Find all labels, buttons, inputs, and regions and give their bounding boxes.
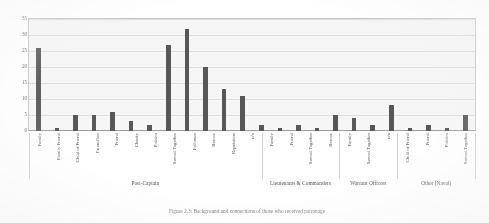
bar-slot — [233, 19, 252, 131]
y-axis-tick: 35 — [9, 16, 27, 21]
x-axis-label: Served Together — [308, 133, 313, 164]
x-axis-label: n/a — [385, 133, 390, 139]
x-axis-label: Friend — [424, 133, 429, 145]
x-label-slot: Family — [262, 133, 281, 179]
group-label: Lieutenants & Commanders — [262, 180, 340, 186]
x-label-slot: Reputation — [223, 133, 242, 179]
bar — [389, 105, 394, 131]
bar-slot — [456, 19, 475, 131]
x-label-slot: Politics — [145, 133, 164, 179]
x-axis-label: n/a — [249, 133, 254, 139]
x-axis-label: Family — [346, 133, 351, 147]
x-axis-label: Child of Friend — [75, 133, 80, 162]
group-label: Post-Captain — [29, 180, 262, 186]
bar — [129, 121, 134, 131]
group-separator — [397, 133, 398, 179]
x-label-slot: Served Together — [456, 133, 475, 179]
y-axis-tick: 25 — [9, 48, 27, 53]
bar-slot — [215, 19, 234, 131]
bar-slot — [85, 19, 104, 131]
bar-slot — [363, 19, 382, 131]
bar-slot — [289, 19, 308, 131]
bar — [426, 125, 431, 131]
bar-slot — [196, 19, 215, 131]
group-label: Other (Naval) — [397, 180, 475, 186]
group-labels: Post-CaptainLieutenants & CommandersWarr… — [29, 180, 475, 202]
bar — [315, 128, 320, 131]
bar — [222, 89, 227, 131]
x-axis-label: Rescue — [327, 133, 332, 147]
x-label-slot: Follower — [184, 133, 203, 179]
bar — [333, 115, 338, 131]
x-axis-label: Follower — [191, 133, 196, 150]
x-axis-label: Family Friend — [56, 133, 61, 160]
bar — [463, 115, 468, 131]
bar-slot — [66, 19, 85, 131]
figure-caption: Figure 2.3: Background and connections o… — [52, 208, 442, 215]
group-label: Warrant Officers — [339, 180, 397, 186]
bar — [240, 96, 245, 131]
bar — [296, 125, 301, 131]
x-label-slot: Served Together — [165, 133, 184, 179]
x-label-slot: Family Friend — [48, 133, 67, 179]
bar-slot — [308, 19, 327, 131]
bar-slot — [438, 19, 457, 131]
group-separator — [339, 133, 340, 179]
bar — [185, 29, 190, 131]
y-axis-tick: 15 — [9, 80, 27, 85]
bar-slot — [178, 19, 197, 131]
x-axis-label: Reputation — [230, 133, 235, 154]
x-label-slot: Friend — [417, 133, 436, 179]
x-label-slot: Politics — [436, 133, 455, 179]
x-axis-label: Child of Friend — [405, 133, 410, 162]
bar-slot — [401, 19, 420, 131]
bar-slot — [382, 19, 401, 131]
bar — [110, 112, 115, 131]
x-label-slot: Friend — [281, 133, 300, 179]
x-axis-label: Served Together — [172, 133, 177, 164]
bar — [259, 125, 264, 131]
y-axis-tick: 5 — [9, 112, 27, 117]
x-axis-label: Family — [269, 133, 274, 147]
bar — [352, 118, 357, 131]
x-axis-label: Rescue — [211, 133, 216, 147]
bar — [166, 45, 171, 131]
figure-container: 05101520253035 FamilyFamily FriendChild … — [0, 0, 489, 223]
x-axis-label: Politics — [443, 133, 448, 147]
bar — [73, 115, 78, 131]
group-separator — [475, 133, 476, 179]
bar-slot — [326, 19, 345, 131]
x-axis-label: Served Together — [366, 133, 371, 164]
bar — [55, 128, 60, 131]
x-axis-label: Politics — [153, 133, 158, 147]
x-label-slot: Served Together — [359, 133, 378, 179]
bar-slot — [29, 19, 48, 131]
bar-slot — [271, 19, 290, 131]
bar-slot — [159, 19, 178, 131]
x-label-slot: Child of Friend — [397, 133, 416, 179]
x-label-slot: Friend/kin — [87, 133, 106, 179]
x-label-slot: Child of Friend — [68, 133, 87, 179]
y-axis-tick: 0 — [9, 128, 27, 133]
bar-slot — [48, 19, 67, 131]
x-label-slot: Family — [29, 133, 48, 179]
bar — [445, 128, 450, 131]
bar-slot — [140, 19, 159, 131]
x-axis-label: Charity — [133, 133, 138, 147]
x-axis-label: Friend/kin — [94, 133, 99, 153]
bar — [92, 115, 97, 131]
x-label-slot: n/a — [378, 133, 397, 179]
x-axis-label: Served Together — [463, 133, 468, 164]
bar — [408, 128, 413, 131]
bar-slot — [252, 19, 271, 131]
bar — [370, 125, 375, 131]
bar-slot — [345, 19, 364, 131]
bar — [203, 67, 208, 131]
x-label-slot: Rescue — [320, 133, 339, 179]
x-axis-label: Friend — [114, 133, 119, 145]
bar — [36, 48, 41, 131]
x-axis-label: Friend — [288, 133, 293, 145]
bar — [278, 128, 283, 131]
x-label-slot: Served Together — [300, 133, 319, 179]
x-axis-label: Family — [36, 133, 41, 147]
